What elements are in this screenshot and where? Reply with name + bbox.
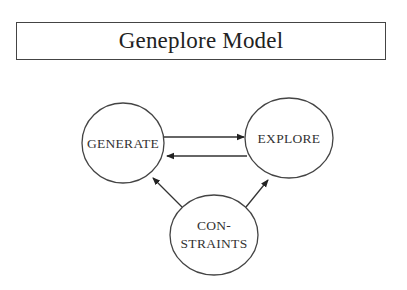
node-generate: GENERATE [82,103,164,183]
generate-label: GENERATE [87,136,159,151]
constraints-label-line1: CON- [197,218,231,233]
node-constraints: CON- STRAINTS [170,195,258,275]
node-explore: EXPLORE [245,98,333,178]
explore-label: EXPLORE [258,131,321,146]
arrow-constraints-to-explore [246,180,268,207]
arrow-constraints-to-generate [153,178,182,207]
geneplore-diagram: GENERATE EXPLORE CON- STRAINTS [0,0,407,290]
constraints-label-line2: STRAINTS [181,236,248,251]
